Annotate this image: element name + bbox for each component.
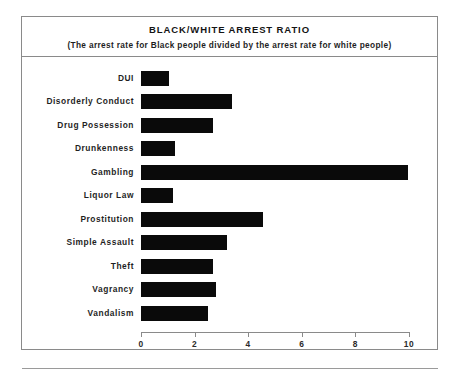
bar-category-label: Gambling [91, 165, 141, 180]
chart-subtitle: (The arrest rate for Black people divide… [67, 40, 391, 50]
bar-drug-possession [141, 118, 213, 133]
bar-row: Vandalism [22, 306, 437, 321]
bar-row: Disorderly Conduct [22, 94, 437, 109]
bar-dui [141, 71, 169, 86]
x-axis-tick-label: 0 [138, 339, 143, 349]
x-axis-tick-label: 6 [299, 339, 304, 349]
bar-gambling [141, 165, 408, 180]
chart-frame: BLACK/WHITE ARREST RATIO (The arrest rat… [21, 16, 438, 350]
x-axis-line [141, 332, 410, 333]
bar-disorderly-conduct [141, 94, 232, 109]
x-axis-tick [409, 333, 410, 337]
bar-category-label: Drunkenness [75, 141, 141, 156]
bar-row: Liquor Law [22, 188, 437, 203]
x-axis-tick [141, 333, 142, 337]
x-axis-tick-label: 10 [404, 339, 414, 349]
bar-row: DUI [22, 71, 437, 86]
x-axis-tick-label: 2 [192, 339, 197, 349]
x-axis-tick [248, 333, 249, 337]
bar-theft [141, 259, 213, 274]
plot-region: DUIDisorderly ConductDrug PossessionDrun… [22, 57, 437, 349]
chart-title-block: BLACK/WHITE ARREST RATIO (The arrest rat… [22, 17, 437, 57]
bar-category-label: Vandalism [88, 306, 141, 321]
bar-prostitution [141, 212, 263, 227]
bar-liquor-law [141, 188, 173, 203]
bar-row: Vagrancy [22, 282, 437, 297]
bar-category-label: DUI [118, 71, 141, 86]
bar-vagrancy [141, 282, 216, 297]
chart-title: BLACK/WHITE ARREST RATIO [149, 24, 310, 35]
bar-category-label: Drug Possession [57, 118, 141, 133]
bar-row: Prostitution [22, 212, 437, 227]
bar-row: Theft [22, 259, 437, 274]
bar-row: Gambling [22, 165, 437, 180]
bar-row: Drug Possession [22, 118, 437, 133]
bar-category-label: Theft [111, 259, 141, 274]
bar-category-label: Simple Assault [67, 235, 141, 250]
x-axis-tick [355, 333, 356, 337]
x-axis-tick [195, 333, 196, 337]
bar-row: Simple Assault [22, 235, 437, 250]
x-axis-tick [302, 333, 303, 337]
bar-category-label: Prostitution [80, 212, 141, 227]
x-axis-tick-label: 8 [353, 339, 358, 349]
bar-vandalism [141, 306, 208, 321]
bar-simple-assault [141, 235, 227, 250]
bar-category-label: Vagrancy [92, 282, 141, 297]
bar-category-label: Disorderly Conduct [46, 94, 141, 109]
x-axis-tick-label: 4 [246, 339, 251, 349]
bar-row: Drunkenness [22, 141, 437, 156]
bar-drunkenness [141, 141, 175, 156]
bar-category-label: Liquor Law [84, 188, 141, 203]
footer-divider [22, 368, 438, 369]
